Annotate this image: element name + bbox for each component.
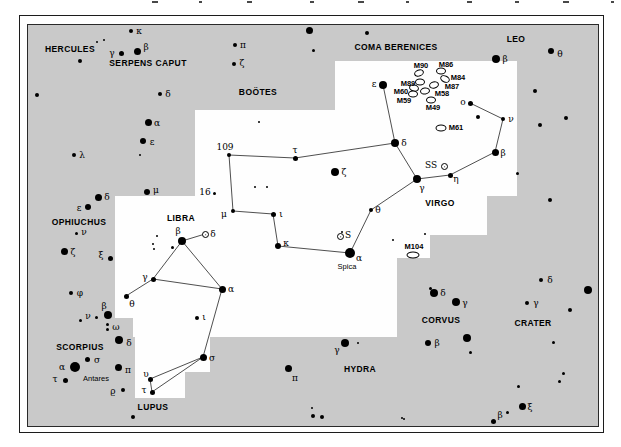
star--	[85, 357, 90, 362]
star-dot	[35, 93, 39, 97]
star-label--: κ	[136, 27, 142, 36]
galaxy-label-m86: M86	[439, 61, 454, 69]
galaxy-label-m58: M58	[435, 90, 450, 98]
star-dot	[152, 243, 154, 245]
star-label--: η	[453, 175, 458, 184]
star-dot	[171, 246, 174, 249]
star-label--: τ	[142, 386, 147, 395]
variable-star-dot	[444, 166, 446, 168]
constellation-label-virgo: VIRGO	[425, 199, 454, 208]
star--	[452, 298, 460, 306]
star-label--: μ	[221, 210, 227, 219]
variable-star-label--: δ	[210, 230, 215, 239]
cropped-text-fragment	[563, 1, 569, 3]
star-label--: β	[175, 227, 180, 236]
constellation-label-corvus: CORVUS	[422, 316, 461, 325]
star-label--: θ	[129, 300, 134, 309]
constellation-label-scorpius: SCORPIUS	[56, 343, 104, 352]
star-dot	[139, 154, 141, 156]
star--	[150, 390, 155, 395]
cropped-text-fragment	[467, 1, 472, 3]
star-dot	[584, 286, 592, 294]
star--	[115, 364, 122, 371]
star--	[140, 138, 146, 144]
star-label--: γ	[462, 299, 467, 308]
star-dot	[392, 239, 394, 241]
star--	[106, 328, 109, 331]
variable-star-s	[337, 233, 344, 240]
star-label--: γ	[334, 346, 339, 355]
cropped-text-fragment	[199, 1, 202, 3]
star--	[72, 153, 76, 157]
star-chart-page: κγβδαελμπζδενζξφβνωδσατπϱπγδγβγδβθξβ109τ…	[0, 0, 621, 447]
constellation-label-bo-tes: BOÖTES	[239, 88, 277, 97]
highlight-patch	[335, 61, 517, 196]
star--	[293, 156, 298, 161]
variable-star-label-s: S	[345, 231, 351, 240]
star-dot	[311, 407, 313, 409]
star--	[271, 212, 276, 217]
constellation-label-hercules: HERCULES	[45, 45, 95, 54]
star-dot	[96, 41, 98, 43]
star--	[200, 354, 207, 361]
star-label--: γ	[142, 273, 147, 282]
star--	[275, 243, 281, 249]
star--	[341, 339, 349, 347]
star-dot	[429, 287, 432, 290]
star-dot	[78, 59, 82, 63]
star--	[119, 51, 124, 56]
star--	[104, 311, 112, 319]
star-label--: θ	[557, 50, 562, 59]
star--	[134, 48, 141, 55]
star-label--: υ	[143, 370, 148, 379]
cropped-text-fragment	[358, 1, 364, 3]
galaxy-ellipse	[436, 125, 447, 132]
star--	[525, 301, 529, 305]
variable-star-dot	[340, 236, 342, 238]
star-label-109: 109	[216, 143, 233, 152]
star-label--: ι	[202, 313, 206, 322]
star-dot	[156, 235, 158, 237]
star-label--: α	[59, 363, 65, 372]
star--	[539, 278, 543, 282]
highlight-patch	[133, 318, 397, 337]
galaxy-label-m49: M49	[426, 104, 441, 112]
star-dot	[506, 411, 509, 414]
star-label--: ζ	[342, 168, 347, 177]
star--	[115, 336, 123, 344]
star-dot	[533, 89, 537, 93]
star--	[285, 365, 292, 372]
star-label--: δ	[401, 139, 406, 148]
constellation-label-leo: LEO	[507, 35, 526, 44]
star-label--: δ	[165, 90, 170, 99]
star-dot	[476, 115, 480, 119]
galaxy-label-m61: M61	[449, 124, 464, 132]
star-label--: β	[434, 339, 439, 348]
star--	[75, 232, 78, 235]
star-dot	[153, 248, 155, 250]
star--	[379, 81, 387, 89]
star--	[70, 362, 80, 372]
star--	[178, 237, 186, 245]
star--	[144, 189, 150, 195]
star--	[95, 316, 98, 319]
star--	[145, 119, 152, 126]
star--	[219, 286, 226, 293]
star--	[129, 29, 133, 33]
star-name-spica: Spica	[338, 263, 357, 271]
star-dot	[538, 123, 542, 127]
star-label--: β	[101, 302, 106, 311]
star--	[369, 208, 373, 212]
star--	[63, 378, 68, 383]
star-dot	[79, 319, 82, 322]
star-label--: β	[143, 43, 148, 52]
star-16	[213, 192, 216, 195]
star-label--: ν	[508, 115, 513, 124]
star-dot	[131, 415, 135, 419]
star-label--: α	[154, 119, 160, 128]
galaxy-label-m59: M59	[397, 97, 412, 105]
star-label--: τ	[53, 375, 58, 384]
star-label--: ϱ	[110, 387, 115, 396]
star-dot	[403, 418, 405, 420]
star-label--: ζ	[240, 59, 245, 68]
